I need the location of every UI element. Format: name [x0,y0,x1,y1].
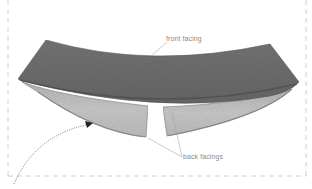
leader-back-facing-left [148,138,182,157]
collar-illustration [0,0,312,189]
leader-front-facing [151,42,167,56]
dotted-curved-arrow-icon [14,121,93,184]
diagram-stage: front facing back facings [0,0,312,189]
label-back-facings: back facings [183,153,223,160]
label-front-facing: front facing [166,35,202,42]
